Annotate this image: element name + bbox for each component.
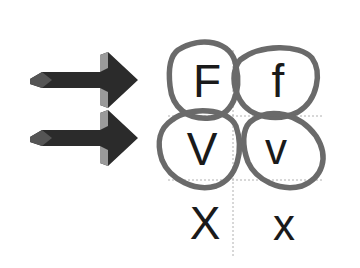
circle-annotations [159, 42, 323, 188]
diagram-canvas: F f V v X x [0, 0, 360, 268]
arrow-icon-top [30, 52, 138, 108]
arrow-icon-bottom [30, 110, 138, 166]
letter-x: x [273, 200, 295, 249]
letter-X: X [190, 197, 221, 249]
letter-F: F [193, 55, 221, 107]
letter-f: f [272, 55, 285, 107]
letter-V: V [187, 123, 218, 175]
letter-v: v [265, 124, 287, 173]
